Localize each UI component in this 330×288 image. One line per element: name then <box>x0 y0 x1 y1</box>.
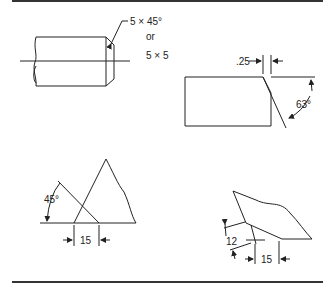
vertical-dimension: 12 <box>226 236 238 247</box>
shaft-chamfer-figure: 5 × 45° or 5 × 5 <box>20 16 169 86</box>
offset-dimension: .25 <box>236 56 250 67</box>
root-gap-dimension: 15 <box>80 235 92 246</box>
callout-line2: or <box>146 31 156 42</box>
chamfer-dimension-diagram: 5 × 45° or 5 × 5 .25 63° 45° 15 <box>0 0 330 288</box>
weld-prep-45-figure: 45° 15 <box>40 159 136 246</box>
callout-line3: 5 × 5 <box>146 50 169 61</box>
bevel-angle-dimension: 45° <box>44 194 59 205</box>
horizontal-dimension: 15 <box>261 254 273 265</box>
weld-prep-offset-figure: 12 15 <box>224 191 312 265</box>
block-chamfer-figure: .25 63° <box>185 55 315 128</box>
callout-line1: 5 × 45° <box>130 16 162 27</box>
angle-dimension: 63° <box>296 99 311 110</box>
